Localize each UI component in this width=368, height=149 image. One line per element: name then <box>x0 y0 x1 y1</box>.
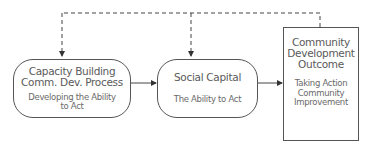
node-title: Social Capital <box>174 72 241 83</box>
subtitle-line: to Act <box>28 102 116 112</box>
node-title: Capacity Building Comm. Dev. Process <box>21 66 123 88</box>
title-line: Outcome <box>287 59 354 70</box>
subtitle-line: Improvement <box>294 98 348 108</box>
title-line: Social Capital <box>174 72 241 83</box>
node-community-development-outcome: Community Development Outcome Taking Act… <box>283 27 359 141</box>
title-line: Comm. Dev. Process <box>21 77 123 88</box>
node-title: Community Development Outcome <box>287 37 354 70</box>
node-subtitle: The Ability to Act <box>174 95 241 105</box>
node-social-capital: Social Capital The Ability to Act <box>157 59 258 118</box>
node-subtitle: Developing the Ability to Act <box>28 93 116 112</box>
subtitle-line: The Ability to Act <box>174 95 241 105</box>
title-line: Capacity Building <box>21 66 123 77</box>
node-capacity-building: Capacity Building Comm. Dev. Process Dev… <box>13 59 131 118</box>
node-subtitle: Taking Action Community Improvement <box>294 79 348 108</box>
